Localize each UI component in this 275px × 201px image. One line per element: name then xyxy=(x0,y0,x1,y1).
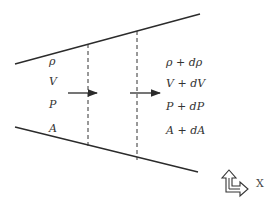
outlet-pressure-label: P + dP xyxy=(165,100,205,113)
inlet-area-label: A xyxy=(48,122,57,135)
duct-diagram: ρ V P A ρ + dρ V + dV P + dP A + dA X xyxy=(0,0,275,201)
outlet-density-label: ρ + dρ xyxy=(165,56,203,69)
outlet-area-label: A + dA xyxy=(165,124,205,137)
inlet-velocity-label: V xyxy=(49,75,58,88)
inlet-density-label: ρ xyxy=(48,55,56,68)
coordinate-axis-icon xyxy=(222,170,248,196)
axis-x-label: X xyxy=(256,177,264,190)
outlet-velocity-label: V + dV xyxy=(166,77,206,90)
inlet-pressure-label: P xyxy=(48,98,57,111)
